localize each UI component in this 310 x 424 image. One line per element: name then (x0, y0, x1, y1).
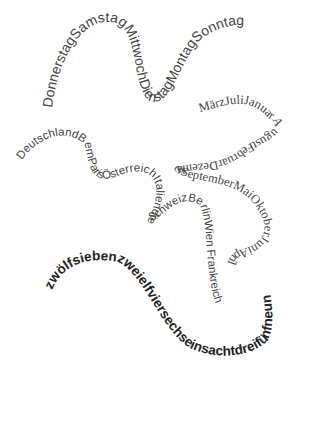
weekday-curve-text: DonnerstagSamstagMittwochDienstagMontagS… (39, 9, 244, 108)
months-curve-text: MärzJuliJanuarAugustFebruarDezemberSepte… (171, 93, 286, 268)
places-curve-text: DeutschlandBernParisÖsterreichItaliendie… (14, 125, 225, 304)
numbers-curve-text: zwölfsiebenzweielfviersechseinsachtdreif… (41, 248, 275, 359)
weekday-text-path: DonnerstagSamstagMittwochDienstagMontagS… (39, 9, 244, 108)
numbers-text-path: zwölfsiebenzweielfviersechseinsachtdreif… (41, 248, 275, 359)
months-text-path: MärzJuliJanuarAugustFebruarDezemberSepte… (171, 93, 286, 268)
places-text-path: DeutschlandBernParisÖsterreichItaliendie… (14, 125, 225, 304)
text-path-artwork: DonnerstagSamstagMittwochDienstagMontagS… (0, 0, 310, 424)
